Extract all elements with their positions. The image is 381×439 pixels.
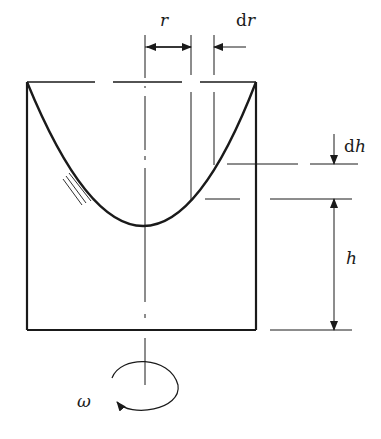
label-dh-h: h [355, 136, 366, 156]
label-dh: dh [344, 138, 366, 155]
label-dr-d: d [236, 10, 247, 30]
radius-dimension [145, 35, 191, 200]
diagram-canvas: r dr dh h ω [0, 0, 381, 439]
free-surface-parabola [27, 82, 256, 226]
label-r: r [160, 12, 168, 29]
diagram-svg [0, 0, 381, 439]
container [27, 82, 256, 330]
label-dr: dr [236, 12, 255, 29]
dr-dimension [214, 35, 246, 165]
label-omega: ω [77, 393, 91, 410]
height-reference-lines [205, 164, 358, 330]
label-dh-d: d [344, 136, 355, 156]
label-dr-r: r [247, 10, 255, 30]
label-h: h [346, 250, 357, 267]
